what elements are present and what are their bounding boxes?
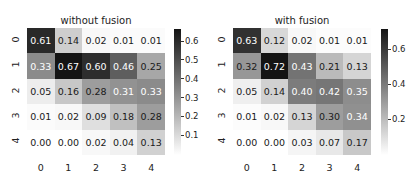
heatmap-cell: 0.28 bbox=[137, 104, 165, 129]
colorbar-tick-label: 0.4 bbox=[388, 79, 406, 89]
heatmap-cell: 0.02 bbox=[288, 28, 316, 53]
heatmap-cell: 0.18 bbox=[110, 104, 138, 129]
heatmap-cell: 0.33 bbox=[27, 53, 55, 78]
heatmap-cell: 0.03 bbox=[288, 130, 316, 155]
colorbar-tick-label: 0.2 bbox=[181, 111, 199, 121]
x-tick-label: 2 bbox=[90, 162, 102, 173]
heatmap-cell: 0.04 bbox=[110, 130, 138, 155]
heatmap-cell: 0.00 bbox=[55, 130, 83, 155]
colorbar-tick-label: 0.5 bbox=[181, 55, 199, 65]
heatmap-cell: 0.42 bbox=[316, 79, 344, 104]
colorbar-tick-label: 0.6 bbox=[388, 44, 406, 54]
colorbar-tick-label: 0.2 bbox=[388, 114, 406, 124]
heatmap-cell: 0.13 bbox=[288, 104, 316, 129]
heatmap-cell: 0.00 bbox=[27, 130, 55, 155]
heatmap-cell: 0.01 bbox=[316, 28, 344, 53]
heatmap-cell: 0.14 bbox=[55, 28, 83, 53]
y-tick-label: 3 bbox=[10, 110, 21, 120]
heatmap-cell: 0.13 bbox=[343, 53, 371, 78]
y-tick-label: 1 bbox=[216, 60, 227, 70]
heatmap-cell: 0.16 bbox=[55, 79, 83, 104]
y-tick-label: 1 bbox=[10, 60, 21, 70]
x-tick-label: 3 bbox=[324, 162, 336, 173]
heatmap-cell: 0.13 bbox=[137, 130, 165, 155]
heatmap-cell: 0.25 bbox=[137, 53, 165, 78]
heatmap-cell: 0.72 bbox=[261, 53, 289, 78]
colorbar bbox=[174, 29, 181, 155]
heatmap-cell: 0.30 bbox=[316, 104, 344, 129]
heatmap-cell: 0.12 bbox=[261, 28, 289, 53]
heatmap-cell: 0.00 bbox=[233, 130, 261, 155]
colorbar-tick-label: 0.6 bbox=[181, 36, 199, 46]
heatmap-cell: 0.07 bbox=[316, 130, 344, 155]
heatmap-cell: 0.00 bbox=[261, 130, 289, 155]
chart-title: with fusion bbox=[275, 15, 330, 26]
heatmap-cell: 0.40 bbox=[288, 79, 316, 104]
heatmap-cell: 0.05 bbox=[27, 79, 55, 104]
heatmap-cell: 0.31 bbox=[110, 79, 138, 104]
y-tick-label: 4 bbox=[216, 136, 227, 146]
heatmap-cell: 0.02 bbox=[55, 104, 83, 129]
heatmap-cell: 0.63 bbox=[233, 28, 261, 53]
colorbar-tick-label: 0.1 bbox=[181, 130, 199, 140]
heatmap-cell: 0.17 bbox=[343, 130, 371, 155]
heatmap-cell: 0.33 bbox=[137, 79, 165, 104]
heatmap-cell: 0.01 bbox=[343, 28, 371, 53]
x-tick-label: 4 bbox=[351, 162, 363, 173]
heatmap-cell: 0.61 bbox=[27, 28, 55, 53]
x-tick-label: 1 bbox=[62, 162, 74, 173]
colorbar bbox=[381, 29, 388, 155]
x-tick-label: 3 bbox=[118, 162, 130, 173]
heatmap-cell: 0.01 bbox=[137, 28, 165, 53]
heatmap-cell: 0.02 bbox=[82, 28, 110, 53]
heatmap-cell: 0.35 bbox=[343, 79, 371, 104]
colorbar-tick-label: 0.3 bbox=[181, 93, 199, 103]
heatmap-cell: 0.43 bbox=[288, 53, 316, 78]
heatmap-cell: 0.21 bbox=[316, 53, 344, 78]
y-tick-label: 2 bbox=[216, 85, 227, 95]
heatmap-grid: 0.610.140.020.010.010.330.670.600.460.25… bbox=[27, 28, 165, 155]
heatmap-cell: 0.09 bbox=[82, 104, 110, 129]
heatmap-grid: 0.630.120.020.010.010.320.720.430.210.13… bbox=[233, 28, 371, 155]
heatmap-cell: 0.01 bbox=[233, 104, 261, 129]
heatmap-cell: 0.02 bbox=[261, 104, 289, 129]
chart-title: without fusion bbox=[60, 15, 131, 26]
heatmap-with-fusion: with fusion 0.630.120.020.010.010.320.72… bbox=[206, 0, 419, 178]
x-tick-label: 4 bbox=[145, 162, 157, 173]
y-tick-label: 0 bbox=[10, 34, 21, 44]
heatmap-cell: 0.60 bbox=[82, 53, 110, 78]
heatmap-without-fusion: without fusion 0.610.140.020.010.010.330… bbox=[0, 0, 210, 178]
heatmap-cell: 0.01 bbox=[27, 104, 55, 129]
x-tick-label: 2 bbox=[296, 162, 308, 173]
heatmap-cell: 0.01 bbox=[110, 28, 138, 53]
heatmap-cell: 0.46 bbox=[110, 53, 138, 78]
heatmap-cell: 0.05 bbox=[233, 79, 261, 104]
heatmap-cell: 0.02 bbox=[82, 130, 110, 155]
heatmap-cell: 0.34 bbox=[343, 104, 371, 129]
y-tick-label: 0 bbox=[216, 34, 227, 44]
heatmap-cell: 0.14 bbox=[261, 79, 289, 104]
x-tick-label: 0 bbox=[241, 162, 253, 173]
heatmap-cell: 0.28 bbox=[82, 79, 110, 104]
colorbar-tick-label: 0.4 bbox=[181, 74, 199, 84]
y-tick-label: 2 bbox=[10, 85, 21, 95]
y-tick-label: 3 bbox=[216, 110, 227, 120]
x-tick-label: 0 bbox=[35, 162, 47, 173]
heatmap-cell: 0.32 bbox=[233, 53, 261, 78]
x-tick-label: 1 bbox=[268, 162, 280, 173]
heatmap-cell: 0.67 bbox=[55, 53, 83, 78]
y-tick-label: 4 bbox=[10, 136, 21, 146]
